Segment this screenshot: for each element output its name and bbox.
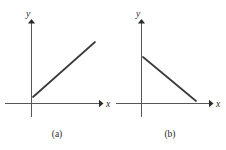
panel-b-y-axis-label: y — [135, 9, 141, 19]
panel-a-x-axis-arrow-icon — [99, 100, 104, 107]
panel-a-x-axis-label: x — [105, 99, 111, 109]
two-panel-graph-figure: y x (a) y x (b) — [0, 0, 226, 150]
panel-b-y-axis-arrow-icon — [138, 19, 145, 24]
panel-b-x-axis-arrow-icon — [209, 100, 214, 107]
panel-a: y x (a) — [5, 9, 111, 140]
panel-a-y-axis-label: y — [25, 9, 31, 19]
panel-b: y x (b) — [116, 9, 221, 140]
panel-b-x-axis-label: x — [215, 99, 221, 109]
panel-b-caption: (b) — [164, 129, 175, 140]
panel-a-caption: (a) — [52, 129, 63, 140]
panel-b-line-segment — [143, 57, 196, 101]
figure-container: y x (a) y x (b) — [0, 0, 226, 150]
panel-a-line-segment — [33, 42, 95, 97]
panel-a-y-axis-arrow-icon — [28, 19, 35, 24]
